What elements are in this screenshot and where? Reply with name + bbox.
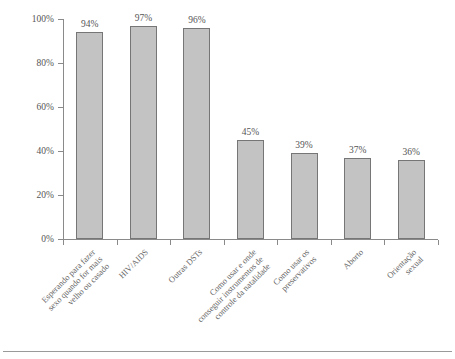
x-axis-tick — [117, 240, 118, 245]
bar — [398, 160, 425, 239]
y-axis-tick-label: 60% — [37, 102, 54, 112]
bar-value-label: 97% — [135, 13, 152, 23]
plot-area: 0%20%40%60%80%100% 94%97%96%45%39%37%36%… — [0, 0, 455, 359]
bar-value-label: 45% — [242, 127, 259, 137]
y-axis-tick-label: 40% — [37, 146, 54, 156]
y-axis-tick — [58, 195, 64, 196]
x-axis-category-label-line: conseguir instrumentos de — [194, 254, 264, 324]
y-axis-tick-label: 100% — [32, 14, 54, 24]
bar — [130, 26, 157, 239]
y-axis-tick-label: 0% — [41, 234, 54, 244]
x-axis-line — [63, 239, 438, 240]
x-axis-category-label-line: Outras DSTs — [166, 247, 204, 285]
x-axis-category-label: Outras DSTs — [166, 247, 204, 285]
y-axis-tick — [58, 151, 64, 152]
x-axis-category-label-line: HIV/AIDS — [117, 247, 150, 280]
y-axis-tick — [58, 19, 64, 20]
x-axis-tick — [224, 240, 225, 245]
x-axis-tick — [277, 240, 278, 245]
bar-value-label: 94% — [81, 19, 98, 29]
x-axis-tick — [384, 240, 385, 245]
x-axis-category-label: Como usar e ondeconseguir instrumentos d… — [187, 247, 271, 331]
x-axis-tick — [170, 240, 171, 245]
bar — [291, 153, 318, 239]
x-axis-category-label: Aborto — [341, 247, 365, 271]
bar — [344, 158, 371, 239]
bar-value-label: 96% — [188, 15, 205, 25]
bottom-separator-rule — [3, 351, 452, 352]
x-axis-category-label-line: Aborto — [341, 247, 365, 271]
y-axis-tick-label: 20% — [37, 190, 54, 200]
x-axis-category-label: Orientaçãosexual — [385, 247, 426, 288]
bar — [76, 32, 103, 239]
x-axis-category-label: Como usar ospreservativos — [271, 247, 318, 294]
y-axis-tick — [58, 107, 64, 108]
y-axis-tick-label: 80% — [37, 58, 54, 68]
bar-chart: 0%20%40%60%80%100% 94%97%96%45%39%37%36%… — [0, 0, 455, 359]
bar-value-label: 36% — [402, 147, 419, 157]
x-axis-tick — [331, 240, 332, 245]
x-axis-category-label: HIV/AIDS — [117, 247, 150, 280]
bar-value-label: 39% — [295, 140, 312, 150]
bar-value-label: 37% — [349, 145, 366, 155]
y-axis-line — [63, 19, 64, 240]
x-axis-tick — [63, 240, 64, 245]
x-axis-tick — [438, 240, 439, 245]
bar — [237, 140, 264, 239]
y-axis-tick — [58, 63, 64, 64]
x-axis-category-label: Esperando para fazersexo quando for mais… — [38, 247, 111, 320]
bar — [183, 28, 210, 239]
